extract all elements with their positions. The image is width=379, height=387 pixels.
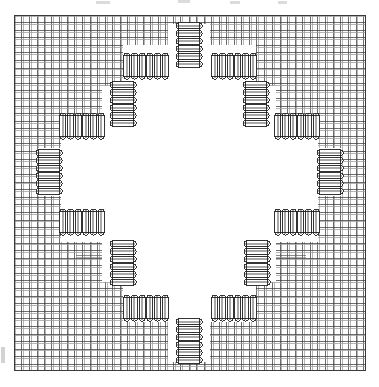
coil-east-south-east: [274, 209, 320, 235]
coil-south: [176, 318, 202, 364]
coil-north-north-west: [110, 81, 136, 127]
coil-north-north-east: [211, 53, 257, 79]
coil-east-north-east: [243, 81, 269, 127]
mesh-diagram: [0, 0, 379, 387]
coil-west-south-west: [110, 240, 136, 286]
coil-west-north-west: [59, 113, 105, 139]
coil-south-east-lower: [211, 295, 257, 321]
coil-east-upper: [274, 113, 320, 139]
coil-east: [317, 149, 343, 195]
coil-south-south-west: [123, 295, 169, 321]
coil-west-lower: [59, 209, 105, 235]
figure-root: [0, 0, 379, 387]
coil-south-south-east: [244, 240, 270, 286]
coil-north: [176, 22, 202, 68]
coil-north-west-upper: [123, 53, 169, 79]
coil-west: [36, 149, 62, 195]
